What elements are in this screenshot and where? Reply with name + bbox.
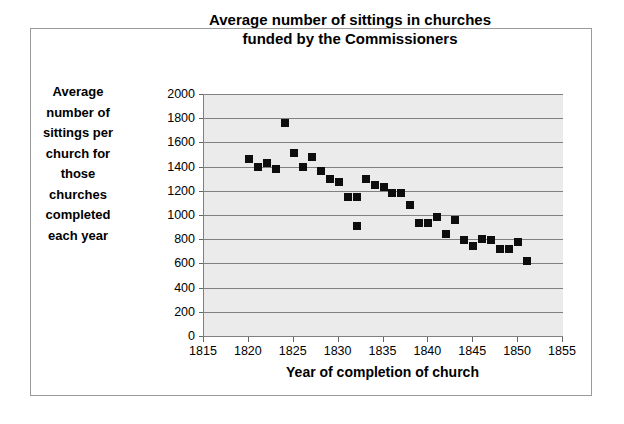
data-point bbox=[496, 245, 504, 253]
y-tick-1400 bbox=[199, 167, 203, 168]
chart-title-line-1: Average number of sittings in churches bbox=[150, 10, 550, 29]
y-axis-label-line-3: sittings per bbox=[24, 123, 132, 144]
y-tick-label-1200: 1200 bbox=[153, 185, 195, 198]
y-tick-200 bbox=[199, 312, 203, 313]
x-axis-title: Year of completion of church bbox=[203, 364, 562, 380]
x-tick-1820 bbox=[248, 337, 249, 342]
gridline-y-800 bbox=[204, 239, 563, 240]
y-tick-1600 bbox=[199, 142, 203, 143]
data-point bbox=[290, 149, 298, 157]
x-tick-label-1840: 1840 bbox=[404, 345, 450, 358]
data-point bbox=[299, 163, 307, 171]
y-tick-600 bbox=[199, 263, 203, 264]
y-axis-label-line-6: churches bbox=[24, 185, 132, 206]
y-tick-label-2000: 2000 bbox=[153, 88, 195, 101]
gridline-y-2000 bbox=[204, 94, 563, 95]
data-point bbox=[317, 167, 325, 175]
y-tick-label-1800: 1800 bbox=[153, 112, 195, 125]
y-axis-label-line-4: church for bbox=[24, 144, 132, 165]
y-axis-label-line-5: those bbox=[24, 164, 132, 185]
x-tick-label-1855: 1855 bbox=[539, 345, 585, 358]
y-tick-label-0: 0 bbox=[153, 330, 195, 343]
data-point bbox=[460, 236, 468, 244]
gridline-y-1600 bbox=[204, 142, 563, 143]
x-tick-1815 bbox=[203, 337, 204, 342]
gridline-y-1000 bbox=[204, 215, 563, 216]
data-point bbox=[415, 219, 423, 227]
data-point bbox=[344, 193, 352, 201]
y-tick-800 bbox=[199, 239, 203, 240]
x-tick-1830 bbox=[338, 337, 339, 342]
data-point bbox=[353, 222, 361, 230]
y-tick-2000 bbox=[199, 94, 203, 95]
y-tick-label-200: 200 bbox=[153, 306, 195, 319]
data-point bbox=[263, 159, 271, 167]
data-point bbox=[371, 181, 379, 189]
y-tick-label-1000: 1000 bbox=[153, 209, 195, 222]
y-axis-label-line-1: Average bbox=[24, 82, 132, 103]
data-point bbox=[254, 163, 262, 171]
x-tick-label-1845: 1845 bbox=[449, 345, 495, 358]
data-point bbox=[487, 236, 495, 244]
x-tick-1825 bbox=[293, 337, 294, 342]
data-point bbox=[388, 189, 396, 197]
data-point bbox=[433, 213, 441, 221]
data-point bbox=[380, 183, 388, 191]
y-tick-label-1400: 1400 bbox=[153, 161, 195, 174]
x-tick-label-1825: 1825 bbox=[270, 345, 316, 358]
data-point bbox=[326, 175, 334, 183]
data-point bbox=[442, 230, 450, 238]
y-tick-1200 bbox=[199, 191, 203, 192]
data-point bbox=[397, 189, 405, 197]
data-point bbox=[281, 119, 289, 127]
data-point bbox=[451, 216, 459, 224]
data-point bbox=[272, 165, 280, 173]
data-point bbox=[523, 257, 531, 265]
data-point bbox=[406, 201, 414, 209]
x-tick-label-1820: 1820 bbox=[225, 345, 271, 358]
y-axis-label-line-2: number of bbox=[24, 103, 132, 124]
y-axis-label-line-8: each year bbox=[24, 226, 132, 247]
y-axis-label-line-7: completed bbox=[24, 205, 132, 226]
gridline-y-600 bbox=[204, 263, 563, 264]
y-tick-label-600: 600 bbox=[153, 257, 195, 270]
gridline-y-400 bbox=[204, 288, 563, 289]
x-tick-label-1850: 1850 bbox=[494, 345, 540, 358]
y-tick-label-800: 800 bbox=[153, 233, 195, 246]
x-tick-label-1815: 1815 bbox=[180, 345, 226, 358]
data-point bbox=[478, 235, 486, 243]
gridline-y-1800 bbox=[204, 118, 563, 119]
data-point bbox=[353, 193, 361, 201]
data-point bbox=[469, 242, 477, 250]
x-tick-1835 bbox=[383, 337, 384, 342]
data-point bbox=[514, 238, 522, 246]
x-tick-label-1830: 1830 bbox=[315, 345, 361, 358]
x-tick-1840 bbox=[427, 337, 428, 342]
data-point bbox=[362, 175, 370, 183]
y-tick-1000 bbox=[199, 215, 203, 216]
x-tick-1850 bbox=[517, 337, 518, 342]
data-point bbox=[308, 153, 316, 161]
y-tick-label-1600: 1600 bbox=[153, 136, 195, 149]
x-tick-label-1835: 1835 bbox=[360, 345, 406, 358]
data-point bbox=[424, 219, 432, 227]
plot-area bbox=[203, 94, 563, 337]
data-point bbox=[505, 245, 513, 253]
gridline-y-200 bbox=[204, 312, 563, 313]
y-tick-1800 bbox=[199, 118, 203, 119]
chart-title: Average number of sittings in churches f… bbox=[150, 10, 550, 48]
chart-title-line-2: funded by the Commissioners bbox=[150, 29, 550, 48]
y-tick-400 bbox=[199, 288, 203, 289]
data-point bbox=[245, 155, 253, 163]
x-tick-1845 bbox=[472, 337, 473, 342]
x-tick-1855 bbox=[562, 337, 563, 342]
y-axis-label: Average number of sittings per church fo… bbox=[24, 82, 132, 246]
data-point bbox=[335, 178, 343, 186]
y-tick-label-400: 400 bbox=[153, 282, 195, 295]
